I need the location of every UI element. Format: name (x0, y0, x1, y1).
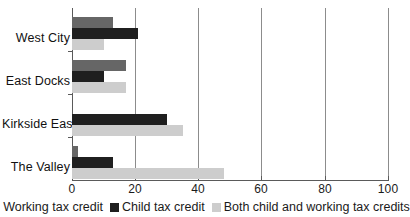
category-label-the-valley: The Valley (2, 161, 70, 174)
x-axis-label-20: 20 (128, 183, 142, 196)
legend-label-both: Both child and working tax credits (224, 200, 410, 214)
bar-the-valley-both-child-and-working-tax-credits (72, 168, 224, 179)
bar-east-docks-child-tax-credit (72, 71, 104, 82)
category-label-west-city: West City (2, 32, 70, 45)
bars-area (72, 8, 388, 180)
category-axis-labels: West City East Docks Kirkside East The V… (0, 0, 70, 180)
bar-west-city-working-tax-credit (72, 17, 113, 28)
gridline-100 (388, 8, 389, 180)
x-axis-label-80: 80 (318, 183, 332, 196)
bar-the-valley-child-tax-credit (72, 157, 113, 168)
legend-label-child: Child tax credit (122, 200, 205, 214)
legend-label-working: Working tax credit (3, 200, 103, 214)
bar-west-city-both-child-and-working-tax-credits (72, 39, 104, 50)
bar-east-docks-both-child-and-working-tax-credits (72, 82, 126, 93)
x-axis-line (72, 180, 389, 181)
category-label-kirkside-east: Kirkside East (2, 118, 70, 131)
bar-kirkside-east-child-tax-credit (72, 114, 167, 125)
x-axis-label-100: 100 (378, 183, 399, 196)
chart-legend: Working tax credit Child tax credit Both… (0, 198, 401, 216)
x-axis-label-0: 0 (69, 183, 76, 196)
x-axis-label-60: 60 (254, 183, 268, 196)
bar-west-city-child-tax-credit (72, 28, 138, 39)
legend-swatch-icon-child (110, 203, 119, 212)
bar-east-docks-working-tax-credit (72, 60, 126, 71)
bar-the-valley-working-tax-credit (72, 146, 78, 157)
bar-kirkside-east-both-child-and-working-tax-credits (72, 125, 183, 136)
x-axis-label-40: 40 (191, 183, 205, 196)
legend-item-both-credits: Both child and working tax credits (212, 200, 410, 214)
category-label-east-docks: East Docks (2, 75, 70, 88)
legend-item-working-tax-credit: Working tax credit (0, 200, 103, 214)
x-axis-tick-100 (388, 176, 389, 181)
legend-item-child-tax-credit: Child tax credit (110, 200, 205, 214)
legend-swatch-icon-both (212, 203, 221, 212)
